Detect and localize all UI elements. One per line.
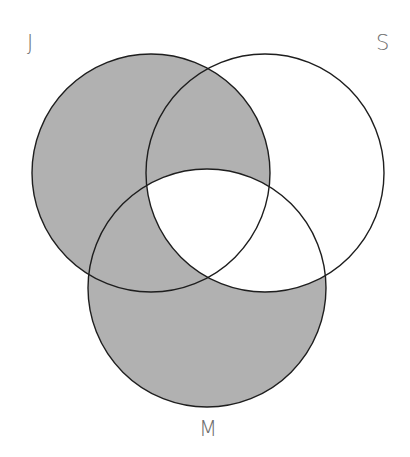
set-label-m: M <box>199 419 217 440</box>
venn-diagram <box>0 0 410 457</box>
set-label-s: S <box>376 33 389 54</box>
shaded-fill <box>32 54 384 407</box>
set-label-j: J <box>27 33 33 54</box>
